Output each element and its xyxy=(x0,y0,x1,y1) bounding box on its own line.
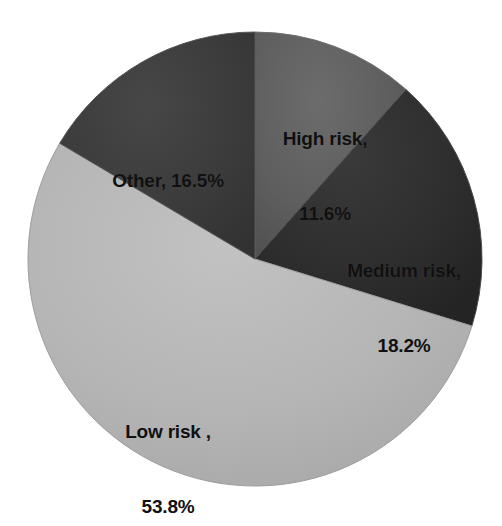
pie-chart-canvas xyxy=(0,0,502,526)
pie-chart-figure: High risk, 11.6% Medium risk, 18.2% Low … xyxy=(0,0,502,526)
pie-slices xyxy=(28,32,482,486)
